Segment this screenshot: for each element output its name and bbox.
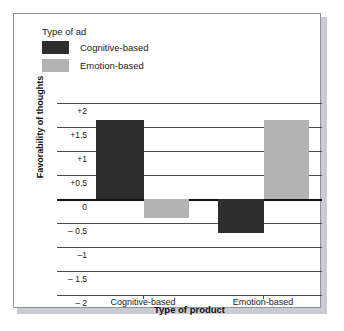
- legend-swatch-icon-emotion-based: [42, 59, 69, 72]
- ytick-label-neg1: –1: [57, 250, 87, 260]
- legend-label-cognitive-based: Cognitive-based: [80, 42, 149, 53]
- legend-entry-emotion-based: Emotion-based: [42, 58, 149, 73]
- chart-legend: Type of ad Cognitive-based Emotion-based: [42, 26, 149, 76]
- chart-figure: Type of ad Cognitive-based Emotion-based…: [13, 13, 321, 308]
- ytick-label-2: +2: [57, 106, 87, 116]
- gridline-neg0_5: [57, 223, 322, 224]
- gridline-neg1: [57, 247, 322, 248]
- x-axis-title: Type of product: [57, 304, 322, 315]
- gridline-zero: [57, 199, 322, 201]
- ytick-label-1: +1: [57, 154, 87, 164]
- ytick-label-neg1_5: – 1.5: [57, 274, 87, 284]
- bar-emotion-product-cognitive-ad: [218, 199, 264, 233]
- plot-area: +2 +1.5 +1 +0.5 0 – 0.5 –1 – 1.5 – 2 Cog…: [57, 103, 322, 295]
- gridline-neg2: [57, 295, 322, 296]
- legend-title: Type of ad: [42, 26, 149, 37]
- ytick-label-0: 0: [57, 202, 87, 212]
- ytick-label-0_5: +0.5: [57, 178, 87, 188]
- bar-cognitive-product-emotion-ad: [144, 199, 189, 218]
- ytick-label-neg0_5: – 0.5: [57, 226, 87, 236]
- legend-label-emotion-based: Emotion-based: [80, 60, 144, 71]
- gridline-neg1_5: [57, 271, 322, 272]
- bar-cognitive-product-cognitive-ad: [96, 120, 144, 199]
- legend-entry-cognitive-based: Cognitive-based: [42, 40, 149, 55]
- y-axis-title: Favorability of thoughts: [35, 69, 45, 185]
- gridline-2: [57, 103, 322, 104]
- ytick-label-1_5: +1.5: [57, 130, 87, 140]
- bar-emotion-product-emotion-ad: [264, 120, 309, 199]
- legend-swatch-icon-cognitive-based: [42, 41, 69, 54]
